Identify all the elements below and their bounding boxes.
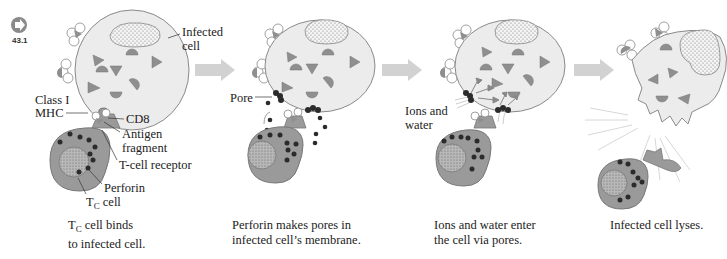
arrow-right-circle-icon [11, 17, 27, 33]
label-infected-cell-line1: Infected [182, 25, 223, 39]
label-tc-cell: TC cell [86, 195, 121, 213]
label-antigen-fragment-line2: fragment [122, 141, 167, 155]
step-arrow-3 [574, 59, 614, 81]
label-class-i-mhc-line2: MHC [35, 106, 63, 120]
panel-3-illustration [436, 20, 565, 186]
figure-number: 43.1 [12, 36, 28, 45]
label-cd8: CD8 [126, 112, 150, 126]
caption-step-3: Ions and water enter the cell via pores. [434, 218, 536, 248]
panel-2-illustration [248, 20, 375, 183]
label-ions-water-line2: water [405, 118, 433, 132]
panel-4-illustration [585, 22, 727, 209]
label-ions-water-line1: Ions and [405, 104, 448, 118]
step-arrow-2 [382, 59, 422, 81]
label-infected-cell-line2: cell [182, 39, 200, 53]
label-pore: Pore [230, 91, 253, 105]
label-perforin: Perforin [104, 181, 145, 195]
caption-step-2: Perforin makes pores in infected cell’s … [232, 218, 361, 248]
caption-step-4: Infected cell lyses. [610, 218, 703, 233]
label-class-i-mhc-line1: Class I [35, 93, 69, 107]
step-arrow-1 [195, 59, 235, 81]
label-antigen-fragment-line1: Antigen [122, 127, 162, 141]
label-t-cell-receptor: T-cell receptor [119, 158, 192, 172]
caption-step-1: TC cell binds to infected cell. [68, 218, 145, 252]
